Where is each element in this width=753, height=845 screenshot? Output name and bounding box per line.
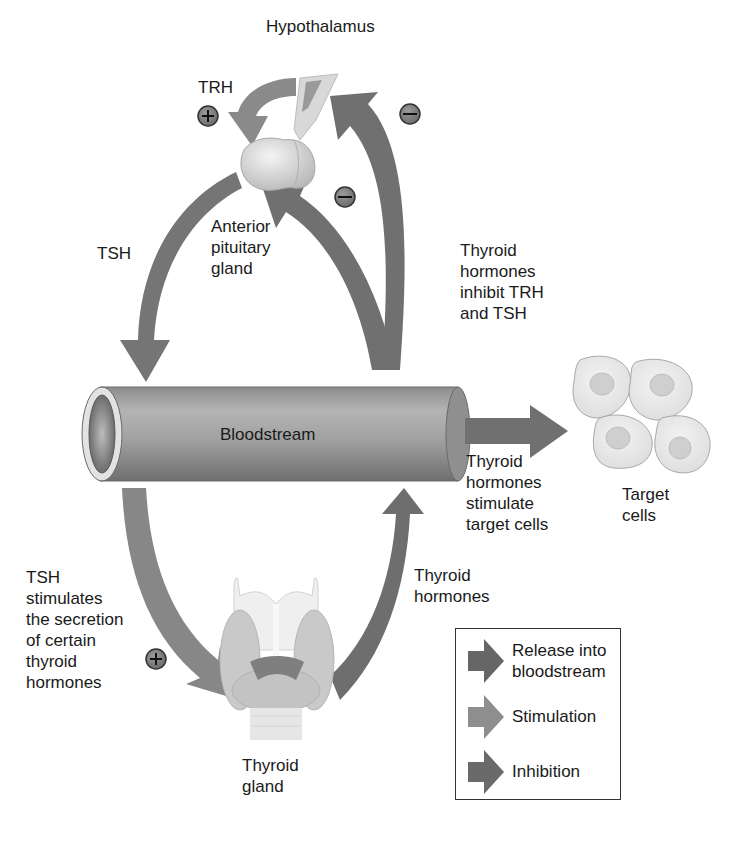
thyroid-gland xyxy=(220,578,334,740)
trh-label: TRH xyxy=(198,77,233,98)
legend-label: Release into bloodstream xyxy=(512,640,607,682)
hypothalamus-stalk xyxy=(294,74,338,140)
plus-sign-thyroid-icon xyxy=(146,649,166,669)
minus-sign-pituitary-icon xyxy=(335,187,355,207)
hypothalamus-label: Hypothalamus xyxy=(266,16,375,37)
tsh-to-thyroid-arrow xyxy=(122,488,226,696)
bloodstream-label: Bloodstream xyxy=(220,424,315,445)
inhibition-arrow-icon xyxy=(466,750,506,794)
thyroid-gland-label: Thyroid gland xyxy=(242,755,299,797)
target-cell xyxy=(629,359,692,420)
diagram-canvas xyxy=(0,0,753,845)
tsh-label: TSH xyxy=(97,243,131,264)
target-cells-label: Target cells xyxy=(622,484,669,526)
minus-sign-hypothalamus-icon xyxy=(400,104,420,124)
stimulate-targets-label: Thyroid hormones stimulate target cells xyxy=(466,451,548,535)
release-arrow-icon xyxy=(466,639,506,683)
tsh-stimulates-label: TSH stimulates the secretion of certain … xyxy=(26,567,123,693)
legend-label: Inhibition xyxy=(512,761,580,782)
stimulation-arrow-icon xyxy=(466,695,506,739)
target-cell xyxy=(573,356,631,418)
legend-label: Stimulation xyxy=(512,706,596,727)
thyroid-hormones-arrow xyxy=(330,488,424,700)
inhibit-label: Thyroid hormones inhibit TRH and TSH xyxy=(460,240,544,324)
target-cell xyxy=(593,415,652,468)
trh-arrow xyxy=(228,78,296,146)
plus-sign-trh-icon xyxy=(198,106,218,126)
inhibit-pituitary-arrow xyxy=(262,182,396,370)
target-cells xyxy=(573,356,710,473)
target-cell xyxy=(655,416,710,473)
legend: Release into bloodstream Stimulation Inh… xyxy=(455,628,621,800)
thyroid-hormones-label: Thyroid hormones xyxy=(414,565,490,607)
anterior-pituitary-label: Anterior pituitary gland xyxy=(211,216,271,279)
anterior-pituitary-gland xyxy=(241,138,315,190)
